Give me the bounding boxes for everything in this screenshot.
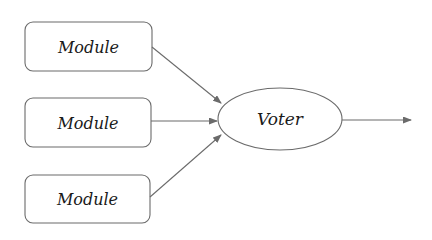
diagram-svg: Module Module Module Voter (0, 0, 432, 240)
module-box-2: Module (25, 98, 151, 147)
module-label-1: Module (57, 38, 119, 57)
arrow-module-3-to-voter (150, 135, 221, 197)
voter-node: Voter (218, 88, 342, 150)
voter-label: Voter (257, 109, 304, 129)
arrow-module-1-to-voter (152, 47, 221, 103)
module-box-3: Module (25, 175, 150, 223)
module-box-1: Module (25, 22, 152, 71)
module-label-3: Module (56, 190, 118, 209)
tmr-diagram: Module Module Module Voter (0, 0, 432, 240)
module-label-2: Module (56, 114, 118, 133)
